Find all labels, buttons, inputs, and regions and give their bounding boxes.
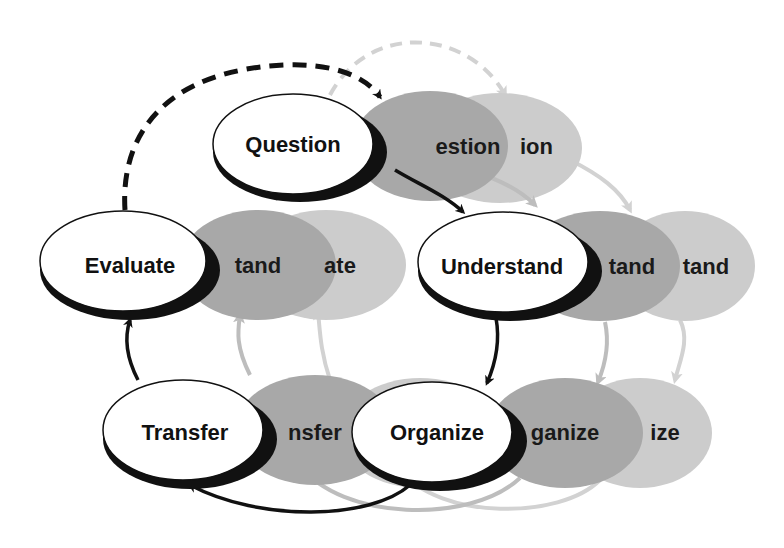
node-evaluate: Evaluate (40, 211, 220, 320)
transfer-label-layer2: nsfer (288, 420, 342, 445)
node-organize: Organize (352, 382, 527, 491)
inquiry-cycle-diagram: estion ion tand ate tand tand nsfer gani… (0, 0, 784, 548)
evaluate-label-layer2: tand (235, 253, 281, 278)
evaluate-label-layer3: ate (324, 253, 356, 278)
edge-understand-organize (487, 318, 498, 383)
understand-label-layer3: tand (683, 254, 729, 279)
node-transfer: Transfer (103, 380, 277, 489)
question-label: Question (245, 132, 340, 157)
organize-label: Organize (390, 420, 484, 445)
understand-label: Understand (441, 254, 563, 279)
understand-label-layer2: tand (609, 254, 655, 279)
transfer-label: Transfer (142, 420, 229, 445)
evaluate-label: Evaluate (85, 253, 176, 278)
question-label-layer2: estion (436, 134, 501, 159)
node-question: Question (213, 94, 387, 202)
edge-transfer-evaluate (127, 320, 138, 380)
organize-label-layer2: ganize (531, 420, 599, 445)
organize-label-layer3: ize (650, 420, 679, 445)
question-label-layer3: ion (520, 134, 553, 159)
